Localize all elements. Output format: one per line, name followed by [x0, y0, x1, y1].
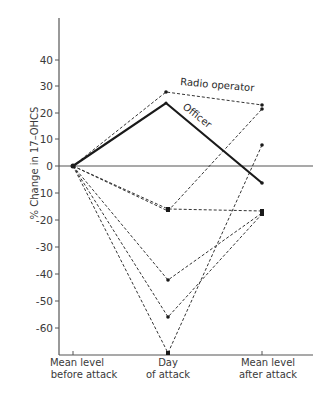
- tick-0: 0: [46, 160, 53, 172]
- series-7: [73, 145, 262, 353]
- chart-canvas: 40 30 20 10 0 -10 -20 -30 -40 -50 -60 % …: [0, 0, 331, 396]
- x-label-before-1: Mean level: [50, 357, 104, 368]
- annotation-officer: Officer: [181, 101, 215, 131]
- x-label-day-1: Day: [158, 357, 178, 368]
- tick-m60: -60: [36, 322, 53, 334]
- x-label-before-2: before attack: [51, 369, 118, 380]
- x-tick-labels: Mean level before attack Day of attack M…: [50, 357, 297, 380]
- x-label-after-1: Mean level: [241, 357, 295, 368]
- tick-m30: -30: [36, 241, 53, 253]
- dashed-series: [73, 92, 262, 353]
- x-label-after-2: after attack: [239, 369, 297, 380]
- series-6: [73, 166, 262, 317]
- tick-m40: -40: [36, 268, 53, 280]
- tick-20: 20: [40, 107, 53, 119]
- annotation-radio-operator: Radio operator: [180, 76, 256, 94]
- x-label-day-2: of attack: [146, 369, 190, 380]
- series-4: [73, 166, 262, 211]
- tick-30: 30: [40, 80, 53, 92]
- tick-m50: -50: [36, 295, 53, 307]
- series-5: [73, 166, 262, 280]
- tick-40: 40: [40, 54, 53, 66]
- y-axis-title: % Change in 17–OHCS: [29, 107, 40, 220]
- tick-10: 10: [40, 133, 53, 145]
